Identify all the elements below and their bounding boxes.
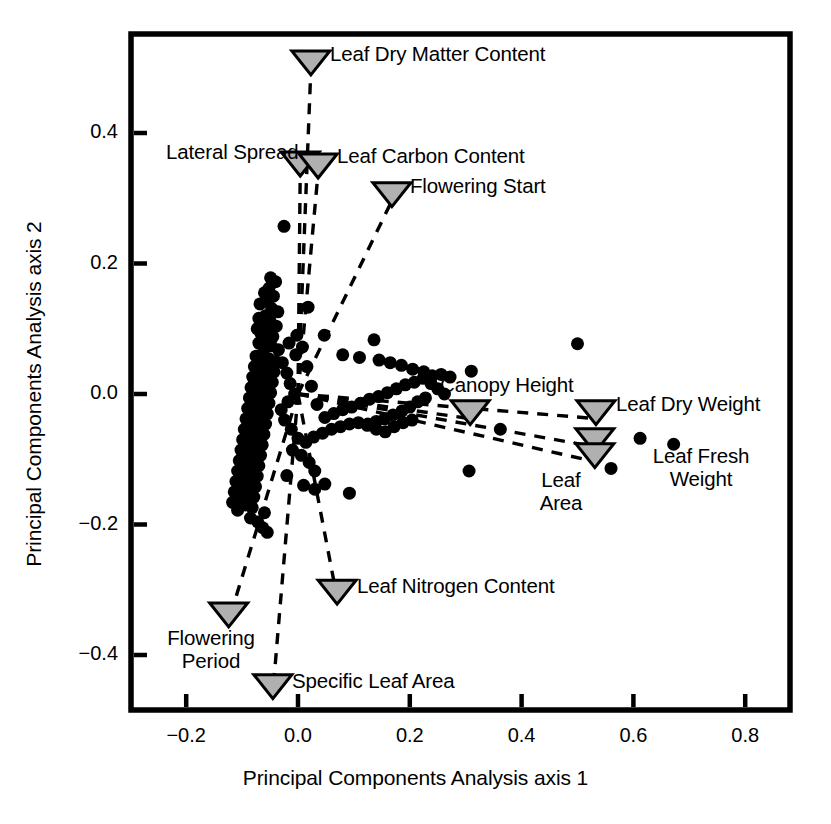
scatter-point (368, 333, 381, 346)
label-leaf-fresh-weight: Leaf FreshWeight (626, 444, 776, 490)
label-flowering-start: Flowering Start (410, 174, 546, 197)
x-tick-label: 0.8 (700, 724, 790, 747)
label-canopy-height: Canopy Height (440, 373, 574, 396)
label-leaf-dry-weight: Leaf Dry Weight (616, 392, 760, 415)
label-leaf-fresh-weight-line1: Leaf Fresh (626, 444, 776, 467)
scatter-point (302, 301, 315, 314)
scatter-point (280, 469, 293, 482)
loading-marker-triangle (577, 401, 615, 425)
x-tick-label: 0.6 (588, 724, 678, 747)
scatter-point (634, 432, 647, 445)
scatter-point (278, 220, 291, 233)
loading-marker-triangle (292, 51, 330, 75)
scatter-point (361, 418, 374, 431)
scatter-point (571, 337, 584, 350)
label-leaf-area-line2: Area (521, 491, 601, 514)
scatter-point (318, 329, 331, 342)
scatter-point (353, 351, 366, 364)
label-leaf-area: LeafArea (521, 468, 601, 514)
scatter-point (406, 363, 419, 376)
pca-biplot-figure: Principal Components Analysis axis 1 Pri… (0, 0, 831, 824)
x-tick-label: 0.4 (477, 724, 567, 747)
scatter-point (300, 360, 313, 373)
label-lateral-spread: Lateral Spread (166, 140, 298, 163)
y-tick-label: 0.2 (23, 251, 118, 274)
y-tick-label: 0.4 (23, 120, 118, 143)
y-tick-label: −0.2 (23, 512, 118, 535)
scatter-point (395, 359, 408, 372)
label-leaf-carbon-content: Leaf Carbon Content (337, 144, 524, 167)
scatter-point (290, 329, 303, 342)
scatter-point (231, 504, 244, 517)
scatter-point (292, 432, 305, 445)
label-flowering-period-line1: Flowering (146, 626, 276, 649)
scatter-point (336, 348, 349, 361)
label-specific-leaf-area: Specific Leaf Area (292, 669, 455, 692)
scatter-point (373, 354, 386, 367)
scatter-point (305, 380, 318, 393)
scatter-point (343, 487, 356, 500)
label-flowering-period-line2: Period (146, 649, 276, 672)
x-axis-title: Principal Components Analysis axis 1 (0, 766, 831, 790)
scatter-point (605, 462, 618, 475)
label-leaf-nitrogen-content: Leaf Nitrogen Content (357, 574, 554, 597)
x-tick-label: −0.2 (141, 724, 231, 747)
y-tick-label: 0.0 (23, 381, 118, 404)
scatter-point (311, 398, 324, 411)
loading-marker-triangle (318, 580, 356, 604)
scatter-point (384, 356, 397, 369)
loading-marker-triangle (373, 183, 411, 207)
label-leaf-dry-matter-content: Leaf Dry Matter Content (330, 42, 545, 65)
loading-vector-line (298, 394, 595, 447)
scatter-point (261, 526, 274, 539)
scatter-point (297, 479, 310, 492)
loading-marker-triangle (210, 603, 248, 627)
scatter-point (286, 444, 299, 457)
scatter-point (253, 297, 266, 310)
label-leaf-area-line1: Leaf (521, 468, 601, 491)
scatter-point (406, 414, 419, 427)
scatter-point (494, 423, 507, 436)
label-flowering-period: FloweringPeriod (146, 626, 276, 672)
loading-marker-triangle (254, 675, 292, 699)
x-tick-label: 0.0 (253, 724, 343, 747)
label-leaf-fresh-weight-line2: Weight (626, 467, 776, 490)
y-tick-label: −0.4 (23, 642, 118, 665)
scatter-point (318, 478, 331, 491)
scatter-point (463, 464, 476, 477)
x-tick-label: 0.2 (365, 724, 455, 747)
scatter-point (296, 341, 309, 354)
